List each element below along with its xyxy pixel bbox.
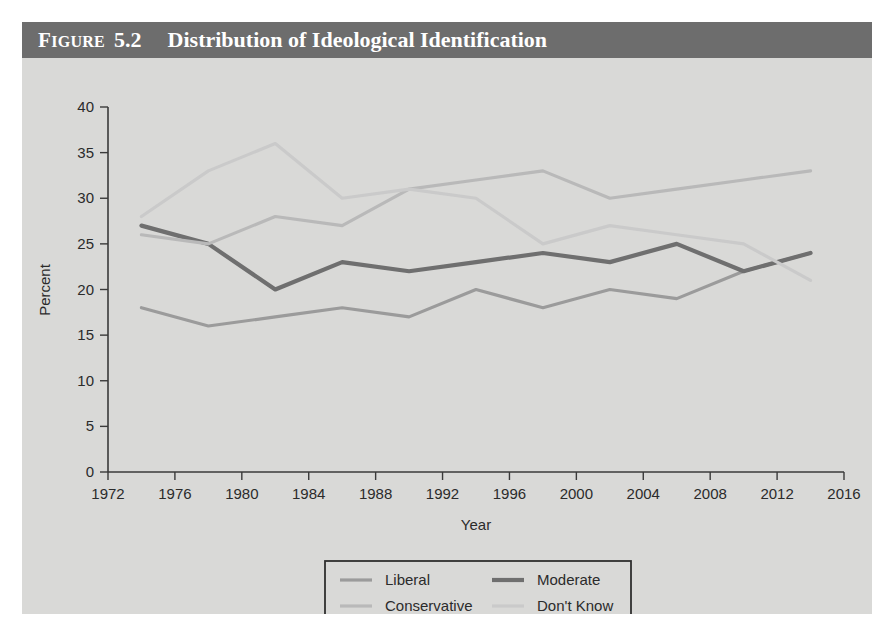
figure-title-bar: FIGURE 5.2 Distribution of Ideological I… [22, 22, 872, 58]
legend-items: LiberalModerateConservativeDon't Know [340, 571, 613, 614]
x-tick-label: 2004 [627, 485, 660, 502]
y-tick-labels: 0510152025303540 [77, 98, 94, 480]
figure-container: FIGURE 5.2 Distribution of Ideological I… [22, 22, 872, 614]
y-tick-label: 0 [86, 463, 94, 480]
y-tick-label: 5 [86, 417, 94, 434]
x-tick-label: 1992 [426, 485, 459, 502]
y-tick-label: 40 [77, 98, 94, 115]
x-tick-label: 1984 [292, 485, 325, 502]
y-tick-label: 15 [77, 326, 94, 343]
x-tick-label: 1980 [225, 485, 258, 502]
x-axis-title: Year [461, 516, 491, 533]
x-tick-label: 2008 [693, 485, 726, 502]
x-tick-marks [108, 472, 844, 480]
line-chart: 0510152025303540 Percent 197219761980198… [22, 58, 872, 614]
y-tick-label: 25 [77, 235, 94, 252]
x-axis: 1972197619801984198819921996200020042008… [91, 472, 860, 533]
x-tick-label: 1996 [493, 485, 526, 502]
legend-label-moderate: Moderate [537, 571, 600, 588]
x-tick-label: 2000 [560, 485, 593, 502]
y-axis: 0510152025303540 Percent [36, 98, 108, 480]
x-tick-label: 1976 [158, 485, 191, 502]
x-tick-labels: 1972197619801984198819921996200020042008… [91, 485, 860, 502]
y-tick-label: 20 [77, 281, 94, 298]
figure-title-text: Distribution of Ideological Identificati… [168, 27, 548, 53]
x-tick-label: 2016 [827, 485, 860, 502]
figure-label: FIGURE [38, 28, 105, 53]
series-line-moderate [141, 226, 810, 290]
legend-label-conservative: Conservative [385, 597, 473, 614]
plot-area: 0510152025303540 Percent 197219761980198… [22, 58, 872, 614]
legend-label-liberal: Liberal [385, 571, 430, 588]
legend-label-don-t-know: Don't Know [537, 597, 613, 614]
data-series-group [141, 144, 810, 327]
y-tick-label: 10 [77, 372, 94, 389]
figure-label-rest: IGURE [51, 33, 105, 50]
chart-legend: LiberalModerateConservativeDon't Know [325, 561, 631, 614]
series-line-don-t-know [141, 144, 810, 281]
figure-number: 5.2 [114, 27, 142, 53]
x-tick-label: 2012 [760, 485, 793, 502]
y-tick-label: 30 [77, 189, 94, 206]
y-tick-label: 35 [77, 144, 94, 161]
y-tick-marks [100, 107, 108, 472]
x-tick-label: 1972 [91, 485, 124, 502]
figure-label-initial: F [38, 28, 51, 52]
series-line-conservative [141, 171, 810, 244]
y-axis-title: Percent [36, 263, 53, 316]
x-tick-label: 1988 [359, 485, 392, 502]
